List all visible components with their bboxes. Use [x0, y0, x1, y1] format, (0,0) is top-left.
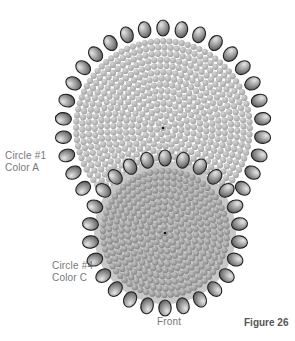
view-label: Front [157, 316, 181, 328]
beadwork-diagram: Circle #1 Color A Circle #4 Color C Fron… [0, 0, 295, 341]
circle4-name: Circle #4 [52, 260, 93, 272]
circle1-name: Circle #1 [5, 150, 46, 162]
figure-caption: Figure 26 [244, 317, 288, 328]
circle1-color: Color A [5, 162, 46, 174]
circle4-color: Color C [52, 272, 93, 284]
circle4-label: Circle #4 Color C [52, 260, 93, 284]
circle1-label: Circle #1 Color A [5, 150, 46, 174]
